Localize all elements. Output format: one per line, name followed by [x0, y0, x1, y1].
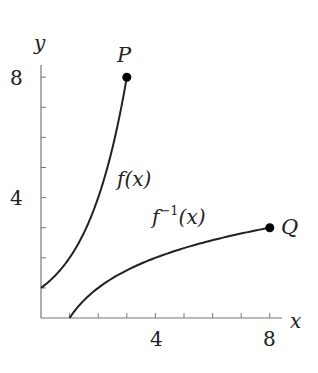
y-tick-label-8: 8	[10, 66, 23, 90]
f-curve	[41, 77, 127, 288]
y-axis-ticks	[41, 77, 46, 288]
point-p-label: P	[116, 43, 132, 67]
x-axis-label: x	[290, 309, 301, 333]
f-inverse-curve	[70, 228, 270, 318]
f-curve-label: f(x)	[115, 167, 151, 191]
point-q-label: Q	[281, 215, 298, 239]
y-axis-label: y	[33, 31, 46, 55]
y-tick-label-4: 4	[10, 186, 23, 210]
x-tick-label-4: 4	[150, 327, 163, 351]
function-inverse-chart: y x 8 4 4 8 P Q f(x) f−1(x)	[0, 0, 318, 373]
point-p-marker	[122, 73, 131, 82]
x-tick-label-8: 8	[263, 327, 276, 351]
point-q-marker	[265, 223, 274, 232]
x-axis-ticks	[70, 313, 270, 318]
f-inverse-curve-label: f−1(x)	[150, 203, 205, 229]
